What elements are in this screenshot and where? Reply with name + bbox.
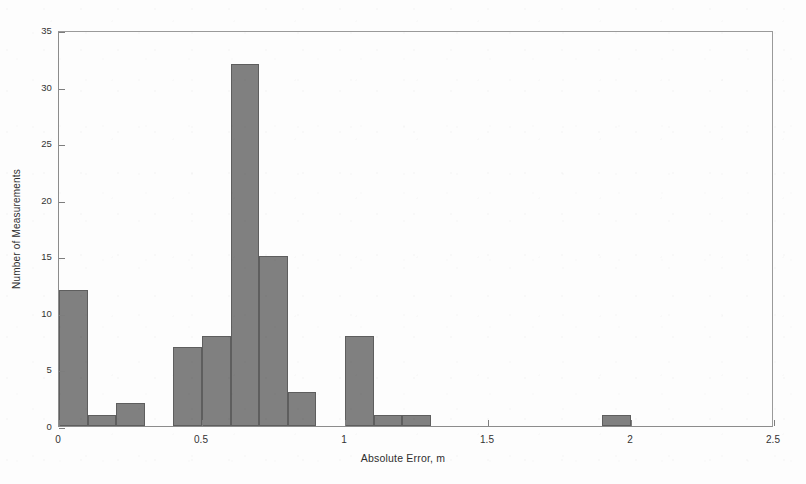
y-axis-tick (59, 202, 65, 203)
histogram-bar (116, 403, 145, 426)
histogram-bar (602, 415, 631, 426)
histogram-bar (88, 415, 117, 426)
y-axis-title: Number of Measurements (11, 169, 22, 289)
y-axis-tick (59, 428, 65, 429)
histogram-bars (59, 32, 772, 426)
x-axis-title: Absolute Error, m (0, 452, 806, 464)
histogram-bar (345, 336, 374, 427)
x-axis-tick (774, 420, 775, 426)
histogram-figure: Number of Measurements 05101520253035 00… (0, 0, 806, 484)
histogram-bar (288, 392, 317, 426)
histogram-bar (173, 347, 202, 426)
x-axis-tick-label: 0 (28, 434, 88, 445)
x-axis-tick-label: 1 (314, 434, 374, 445)
y-axis-tick (59, 258, 65, 259)
y-axis-tick-label: 25 (6, 138, 52, 149)
y-axis-tick-label: 10 (6, 308, 52, 319)
y-axis-tick-label: 5 (6, 364, 52, 375)
y-axis-tick (59, 371, 65, 372)
histogram-bar (259, 256, 288, 426)
x-axis-tick-label: 0.5 (171, 434, 231, 445)
y-axis-tick-label: 35 (6, 25, 52, 36)
y-axis-tick-label: 15 (6, 251, 52, 262)
x-axis-tick-label: 1.5 (457, 434, 517, 445)
y-axis-tick (59, 315, 65, 316)
x-axis-tick (345, 420, 346, 426)
y-axis-tick-label: 30 (6, 82, 52, 93)
y-axis-tick (59, 32, 65, 33)
histogram-bar (402, 415, 431, 426)
histogram-bar (231, 64, 260, 426)
x-axis-tick (202, 420, 203, 426)
x-axis-tick-label: 2 (600, 434, 660, 445)
histogram-bar (202, 336, 231, 427)
y-axis-tick-label: 0 (6, 421, 52, 432)
x-axis-tick-label: 2.5 (743, 434, 803, 445)
histogram-bar (374, 415, 403, 426)
x-axis-tick (631, 420, 632, 426)
y-axis-tick (59, 145, 65, 146)
y-axis-tick (59, 89, 65, 90)
plot-area (58, 31, 773, 427)
x-axis-tick (59, 420, 60, 426)
histogram-bar (59, 290, 88, 426)
x-axis-tick (488, 420, 489, 426)
y-axis-tick-label: 20 (6, 195, 52, 206)
